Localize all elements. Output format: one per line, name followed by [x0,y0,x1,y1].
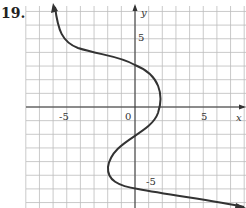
x-axis-label: x [236,112,242,123]
tick-label-x-neg5: -5 [59,111,69,122]
tick-label-y-5: 5 [138,32,144,43]
graph: -5 0 5 x 5 -5 y [0,0,246,208]
x-axis-arrow-icon [239,105,246,110]
tick-label-origin: 0 [125,111,131,122]
tick-label-x-5: 5 [201,111,207,122]
tick-label-y-neg5: -5 [146,176,156,187]
y-axis-arrow-icon [133,4,138,11]
y-axis-label: y [140,7,147,18]
figure: 19. -5 0 5 x 5 -5 y [0,0,246,208]
